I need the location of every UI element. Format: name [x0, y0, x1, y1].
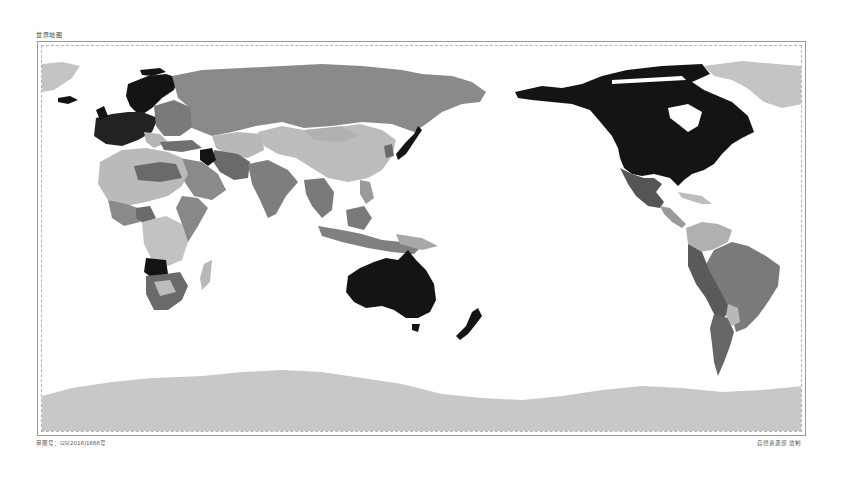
region-borneo[interactable] [346, 206, 372, 230]
region-tasmania[interactable] [412, 324, 420, 332]
map-title: 世界地图 [36, 30, 62, 39]
region-japan[interactable] [396, 126, 422, 160]
region-libya-egypt[interactable] [134, 162, 182, 182]
region-madagascar[interactable] [200, 260, 212, 290]
region-antarctica[interactable] [42, 370, 802, 432]
region-caribbean[interactable] [678, 192, 712, 204]
region-russia[interactable] [172, 64, 486, 136]
region-greenland-west[interactable] [42, 62, 80, 92]
region-central-america[interactable] [660, 206, 686, 228]
region-southeast-asia[interactable] [304, 178, 334, 218]
region-iceland[interactable] [58, 96, 78, 104]
region-india[interactable] [248, 160, 298, 218]
world-map [42, 46, 802, 432]
region-new-zealand[interactable] [456, 308, 482, 340]
region-australia[interactable] [346, 250, 436, 318]
region-turkey[interactable] [160, 140, 202, 152]
map-canvas [41, 45, 802, 432]
approval-number: 审图号：GS(2016)1666号 [36, 439, 106, 447]
publisher-credit: 自然资源部 监制 [757, 439, 801, 447]
region-philippines[interactable] [360, 180, 374, 204]
